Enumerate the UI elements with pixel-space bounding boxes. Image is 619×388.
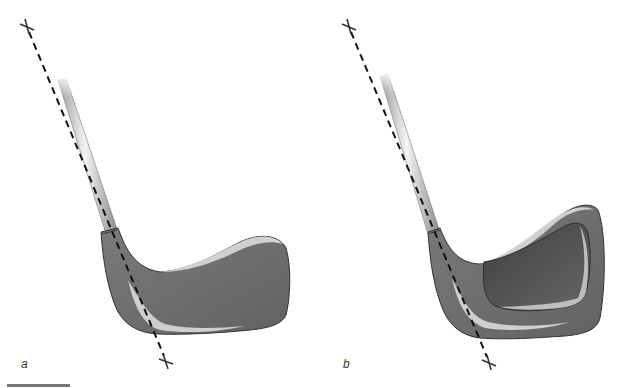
golf-club-diagram <box>0 0 619 388</box>
panel-a-clubhead <box>56 74 290 334</box>
scale-bar <box>7 384 70 387</box>
axis-marker-top-b-icon <box>342 19 356 34</box>
axis-marker-bottom-b-icon <box>482 355 496 370</box>
axis-marker-bottom-a-icon <box>159 354 173 369</box>
shaft-a <box>56 74 118 234</box>
shaft-b <box>378 70 440 234</box>
panel-label-b: b <box>343 357 350 371</box>
panel-b-clubhead <box>378 70 604 339</box>
panel-label-a: a <box>21 357 28 371</box>
axis-marker-top-a-icon <box>20 19 34 34</box>
clubhead-a <box>101 228 290 334</box>
